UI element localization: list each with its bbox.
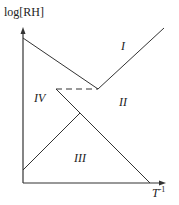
phase-diagram: log[RH] I II III IV T-1 bbox=[0, 0, 179, 205]
y-axis-arrow-icon bbox=[21, 27, 26, 34]
boundary-right-ascending bbox=[98, 28, 164, 89]
region-label-iii: III bbox=[74, 152, 86, 164]
region-label-ii: II bbox=[119, 96, 127, 108]
boundary-lower-ascending bbox=[23, 113, 80, 170]
region-label-iv: IV bbox=[34, 92, 45, 104]
boundary-middle-descending bbox=[56, 89, 150, 183]
region-label-i: I bbox=[121, 40, 125, 52]
y-axis-label: log[RH] bbox=[4, 6, 44, 18]
x-axis-label-exponent: -1 bbox=[159, 185, 166, 194]
diagram-canvas bbox=[0, 0, 179, 205]
boundary-upper-left bbox=[23, 38, 98, 89]
x-axis-label-base: T bbox=[152, 186, 159, 200]
x-axis-label: T-1 bbox=[152, 186, 165, 199]
